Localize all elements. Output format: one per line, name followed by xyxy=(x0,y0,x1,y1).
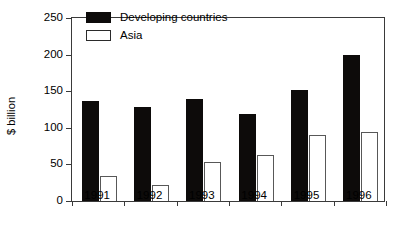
x-axis-label-1994: 1994 xyxy=(241,190,267,202)
legend-label-developing-countries: Developing countries xyxy=(120,12,227,24)
x-axis-tick-mark xyxy=(124,201,125,206)
chart-legend: Developing countries Asia xyxy=(86,10,227,46)
y-axis-tick-label: 250 xyxy=(44,12,63,24)
y-axis-tick-mark xyxy=(66,18,72,19)
x-axis-tick-mark xyxy=(386,201,387,206)
legend-swatch-asia-icon xyxy=(86,30,111,41)
bar-1991-developing-countries xyxy=(82,101,99,201)
x-axis-label-1991: 1991 xyxy=(84,190,110,202)
x-axis-tick-mark xyxy=(177,201,178,206)
y-axis-tick-mark xyxy=(66,128,72,129)
y-axis-title: $ billion xyxy=(0,0,22,232)
x-axis-tick-mark xyxy=(72,201,73,206)
bar-1993-developing-countries xyxy=(186,99,203,201)
legend-item-developing-countries: Developing countries xyxy=(86,10,227,25)
y-axis-tick-label: 200 xyxy=(44,49,63,61)
legend-label-asia: Asia xyxy=(120,30,142,42)
x-axis-tick-mark xyxy=(281,201,282,206)
bar-1992-developing-countries xyxy=(134,107,151,201)
x-axis-label-1992: 1992 xyxy=(137,190,163,202)
bar-1994-developing-countries xyxy=(239,114,256,201)
legend-swatch-developing-countries-icon xyxy=(86,12,111,23)
y-axis-tick-label: 150 xyxy=(44,85,63,97)
y-axis-tick-label: 0 xyxy=(57,195,63,207)
bar-1996-developing-countries xyxy=(343,55,360,201)
y-axis-tick-mark xyxy=(66,55,72,56)
bar-chart: $ billion 050100150200250 19911992199319… xyxy=(0,0,408,232)
x-axis-tick-mark xyxy=(229,201,230,206)
legend-item-asia: Asia xyxy=(86,28,227,43)
y-axis-tick-mark xyxy=(66,91,72,92)
x-axis-label-1993: 1993 xyxy=(189,190,215,202)
y-axis-tick-label: 100 xyxy=(44,122,63,134)
bar-1995-developing-countries xyxy=(291,90,308,201)
x-axis-label-1995: 1995 xyxy=(294,190,320,202)
x-axis-tick-mark xyxy=(334,201,335,206)
y-axis-tick-mark xyxy=(66,164,72,165)
y-axis-tick-label: 50 xyxy=(50,159,63,171)
x-axis-label-1996: 1996 xyxy=(346,190,372,202)
